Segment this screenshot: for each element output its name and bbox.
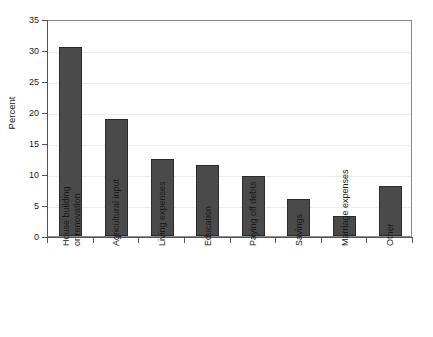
x-axis-tick (321, 238, 322, 243)
y-axis-tick-label: 35 (5, 16, 39, 25)
x-axis-label: Agricultural input (111, 154, 122, 246)
x-axis-tick (184, 238, 185, 243)
y-axis-tick-label-wrap: 25 (0, 78, 39, 87)
y-axis-tick-label-wrap: 15 (0, 140, 39, 149)
cropped-chart-title (0, 0, 433, 1)
y-axis-tick (42, 144, 47, 145)
gridline (48, 176, 411, 177)
plot-area (47, 20, 412, 237)
x-axis-label: Marriage expenses (340, 154, 351, 246)
x-axis-label: Savings (294, 154, 305, 246)
x-axis-tick (412, 238, 413, 243)
gridline (48, 83, 411, 84)
gridline (48, 114, 411, 115)
y-axis-tick-label-wrap: 10 (0, 171, 39, 180)
gridline (48, 207, 411, 208)
x-axis-tick (93, 238, 94, 243)
y-axis-tick-label-wrap: 5 (0, 202, 39, 211)
gridline (48, 52, 411, 53)
x-axis-tick (47, 238, 48, 243)
bar-chart: 05101520253035 Percent House building or… (0, 0, 433, 337)
x-axis-label: Education (203, 154, 214, 246)
y-axis-tick (42, 206, 47, 207)
y-axis-tick-label: 5 (5, 202, 39, 211)
y-axis-tick (42, 82, 47, 83)
y-axis-tick-label-wrap: 30 (0, 47, 39, 56)
x-axis-label: Other (385, 154, 396, 246)
x-axis-tick (138, 238, 139, 243)
y-axis-tick-label-wrap: 0 (0, 233, 39, 242)
x-axis-tick (230, 238, 231, 243)
x-axis-label: House building or renovation (61, 154, 82, 246)
y-axis-tick-label-wrap: 35 (0, 16, 39, 25)
y-axis-tick-label: 10 (5, 171, 39, 180)
y-axis-title: Percent (7, 83, 17, 143)
y-axis-tick-label: 0 (5, 233, 39, 242)
x-axis-tick (275, 238, 276, 243)
y-axis-tick (42, 51, 47, 52)
x-axis-label: Paying off debts (248, 154, 259, 246)
y-axis-tick (42, 113, 47, 114)
y-axis-tick (42, 175, 47, 176)
y-axis-tick (42, 20, 47, 21)
y-axis-tick-label: 30 (5, 47, 39, 56)
x-axis-label: Living expenses (157, 154, 168, 246)
x-axis-tick (366, 238, 367, 243)
y-axis-line (47, 20, 48, 238)
gridline (48, 145, 411, 146)
